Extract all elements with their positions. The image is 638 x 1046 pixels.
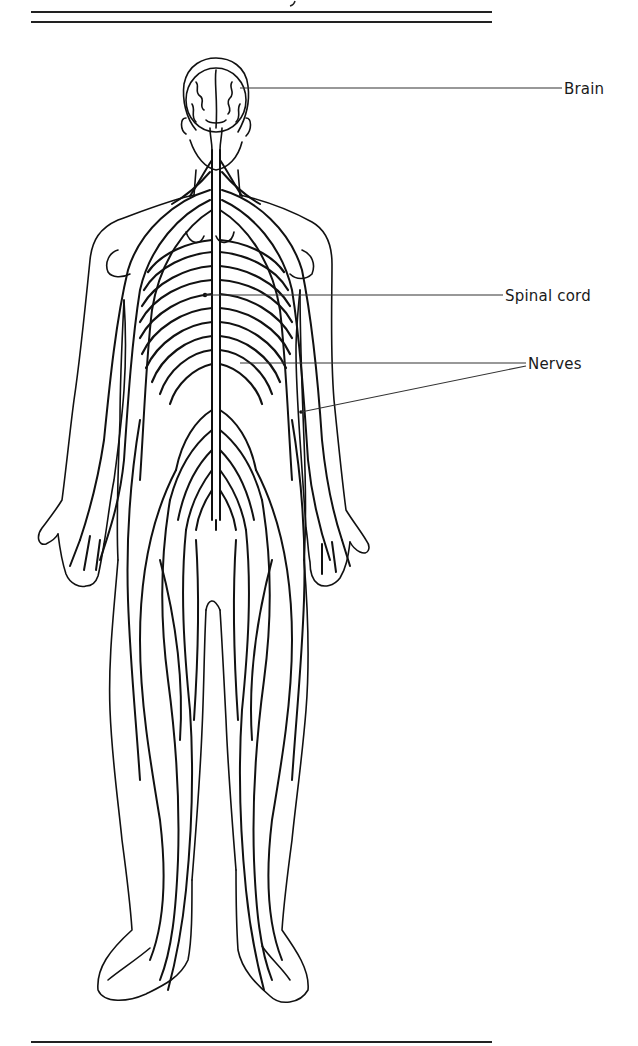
nervous-system-illustration bbox=[0, 0, 638, 1046]
label-spinal-cord: Spinal cord bbox=[505, 287, 591, 305]
leg-nerves bbox=[128, 410, 305, 990]
body-outline bbox=[39, 58, 369, 1002]
intercostal-nerves bbox=[140, 240, 292, 404]
label-nerves: Nerves bbox=[528, 355, 582, 373]
spinal-cord bbox=[212, 150, 220, 530]
label-brain: Brain bbox=[564, 80, 604, 98]
brain-shape bbox=[186, 68, 246, 150]
nerves-leader-line-2 bbox=[301, 366, 526, 412]
arm-nerves bbox=[70, 190, 350, 574]
diagram-page: Brain Spinal cord Nerves bbox=[0, 0, 638, 1046]
